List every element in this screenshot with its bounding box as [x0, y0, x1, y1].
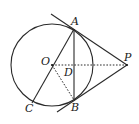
label-b: B [70, 101, 79, 114]
label-o: O [41, 55, 50, 68]
label-p: P [123, 51, 132, 64]
label-c: C [25, 102, 34, 115]
geometry-diagram: A B C D O P [0, 0, 139, 124]
point-p-dot [126, 64, 128, 66]
tangent-pa [51, 14, 127, 65]
point-o-dot [51, 64, 53, 66]
label-d: D [63, 66, 73, 79]
label-a: A [70, 15, 79, 28]
